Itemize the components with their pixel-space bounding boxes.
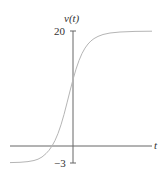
curve-v	[10, 31, 152, 162]
tick-label-top: 20	[54, 25, 66, 37]
x-axis-label: t	[154, 139, 158, 151]
chart: v(t) 20 −3 t	[0, 0, 164, 178]
tick-label-bottom: −3	[54, 157, 66, 169]
y-axis-label: v(t)	[64, 12, 80, 25]
